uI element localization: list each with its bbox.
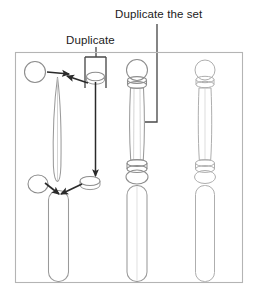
diagram-canvas: Duplicate the set Duplicate xyxy=(0,0,260,302)
duplicate-the-set-label: Duplicate the set xyxy=(115,8,203,20)
illustration-stage: Duplicate the set Duplicate xyxy=(0,0,260,302)
duplicate-label: Duplicate xyxy=(66,34,115,46)
